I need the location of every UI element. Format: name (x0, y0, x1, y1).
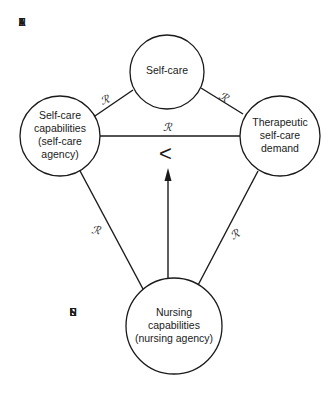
label-line: Self-care (130, 64, 204, 77)
relation-symbol-left-bottom: ℛ (91, 224, 102, 236)
label-line: capabilities (20, 122, 100, 135)
label-line: demand (240, 142, 320, 155)
arrow-head-icon (165, 168, 172, 181)
edge-demand-nursing (196, 171, 258, 289)
nurse-letter: E (67, 307, 79, 320)
label-line: Therapeutic (240, 116, 320, 129)
edge-capabilities-nursing (79, 169, 143, 289)
self-care-capabilities-label: Self-care capabilities (self-care agency… (20, 109, 100, 161)
relation-symbol-middle: ℛ (163, 122, 172, 133)
nursing-capabilities-label: Nursing capabilities (nursing agency) (126, 306, 222, 345)
patient-letter: T (16, 17, 28, 30)
label-line: self-care (240, 129, 320, 142)
self-care-label: Self-care (130, 64, 204, 77)
label-line: (nursing agency) (126, 332, 222, 345)
therapeutic-demand-label: Therapeutic self-care demand (240, 116, 320, 155)
label-line: Nursing (126, 306, 222, 319)
label-line: (self-care (20, 135, 100, 148)
label-line: agency) (20, 148, 100, 161)
label-line: Self-care (20, 109, 100, 122)
less-than-symbol: < (159, 143, 172, 165)
label-line: capabilities (126, 319, 222, 332)
